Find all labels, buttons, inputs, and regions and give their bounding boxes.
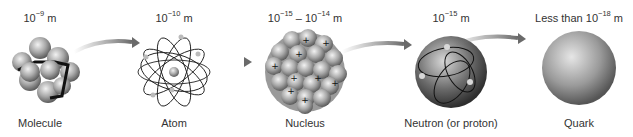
label-quark: Quark: [564, 117, 594, 129]
svg-text:+: +: [287, 86, 295, 96]
svg-text:+: +: [271, 61, 279, 71]
svg-text:+: +: [295, 49, 303, 59]
quark-icon: [542, 31, 616, 105]
label-molecule: Molecule: [18, 117, 62, 129]
label-neutron: Neutron (or proton): [404, 117, 498, 129]
nucleus-icon: +++ +++ +++: [265, 29, 347, 114]
label-atom: Atom: [161, 117, 187, 129]
svg-text:+: +: [290, 73, 298, 83]
svg-text:+: +: [322, 38, 330, 48]
svg-text:+: +: [302, 35, 310, 45]
molecule-icon: [12, 37, 80, 103]
neutron-icon: [415, 36, 487, 110]
label-nucleus: Nucleus: [285, 117, 325, 129]
atom-icon: [136, 34, 211, 110]
svg-text:+: +: [314, 73, 322, 83]
svg-text:+: +: [301, 95, 309, 105]
svg-text:+: +: [331, 78, 339, 88]
